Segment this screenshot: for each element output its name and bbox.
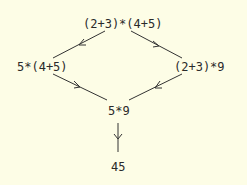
node-result: 45 — [111, 160, 125, 174]
node-root: (2+3)*(4+5) — [83, 17, 162, 31]
arrowhead-root-right — [153, 41, 159, 47]
arrowhead-root-left — [79, 39, 86, 45]
node-left: 5*(4+5) — [17, 60, 68, 74]
node-middle: 5*9 — [108, 104, 130, 118]
node-right: (2+3)*9 — [174, 60, 225, 74]
